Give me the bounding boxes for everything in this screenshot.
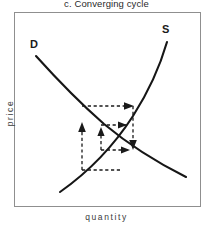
figure-title: c. Converging cycle xyxy=(0,0,213,9)
converging-cycle-figure: c. Converging cycle xyxy=(0,0,213,228)
x-axis-label: quantity xyxy=(0,212,213,222)
demand-curve-label: D xyxy=(30,38,38,50)
plot-frame xyxy=(15,13,201,207)
y-axis-label: price xyxy=(5,85,15,141)
supply-curve-label: S xyxy=(162,23,169,35)
supply-demand-plot xyxy=(0,0,213,228)
